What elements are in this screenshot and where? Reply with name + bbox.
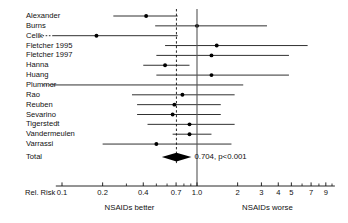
study-row (137, 103, 221, 107)
axis-tick-label: 7 (309, 188, 313, 197)
study-label-plummer: Plummer (26, 80, 57, 89)
study-label-fletcher-1997: Fletcher 1997 (26, 50, 72, 59)
study-row (137, 113, 221, 117)
point-estimate-marker (171, 113, 175, 117)
axis-tick-label: 0.2 (97, 188, 108, 197)
study-row (103, 142, 232, 146)
study-label-sevarino: Sevarino (26, 110, 56, 119)
point-estimate-marker (95, 34, 99, 38)
study-label-fletcher-1995: Fletcher 1995 (26, 41, 72, 50)
point-estimate-marker (188, 132, 192, 136)
study-label-tigerstedt: Tigerstedt (26, 119, 60, 128)
x-axis: 0.10.20.40.71.0234579Rel. Risk (25, 182, 335, 197)
axis-tick-label: 5 (289, 188, 293, 197)
point-estimate-marker (210, 53, 214, 57)
study-label-huang: Huang (26, 70, 48, 79)
point-estimate-marker (180, 93, 184, 97)
study-label-rao: Rao (26, 90, 40, 99)
study-label-varrassi: Varrassi (26, 139, 54, 148)
point-estimate-marker (172, 103, 176, 107)
point-estimate-marker (154, 142, 158, 146)
study-label-alexander: Alexander (26, 11, 61, 20)
summary-estimate-label: 0.704, p<0.001 (194, 152, 246, 161)
study-row (155, 24, 267, 28)
footer-left-label: NSAIDs better (105, 203, 155, 212)
study-label-vandermeulen: Vandermeulen (26, 129, 75, 138)
axis-tick-label: 0.4 (138, 188, 149, 197)
study-rows (42, 14, 307, 146)
axis-footers: NSAIDs betterNSAIDs worse (105, 203, 293, 212)
x-axis-title: Rel. Risk (25, 188, 56, 197)
study-row (143, 63, 189, 67)
study-label-burns: Burns (26, 21, 46, 30)
study-row (173, 132, 212, 136)
study-label-celik: Celik (26, 31, 43, 40)
study-row (132, 93, 235, 97)
axis-tick-label: 2 (236, 188, 240, 197)
summary-row: 0.704, p<0.001 (162, 152, 247, 161)
point-estimate-marker (215, 44, 219, 48)
axis-tick-label: 9 (324, 188, 328, 197)
point-estimate-marker (144, 14, 148, 18)
study-row (148, 122, 235, 126)
point-estimate-marker (163, 63, 167, 67)
study-row (165, 44, 308, 48)
forest-plot: AlexanderBurnsCelikFletcher 1995Fletcher… (0, 0, 348, 223)
study-label-reuben: Reuben (26, 100, 53, 109)
axis-tick-label: 4 (276, 188, 280, 197)
point-estimate-marker (210, 73, 214, 77)
study-label-column: AlexanderBurnsCelikFletcher 1995Fletcher… (26, 11, 75, 161)
summary-diamond (162, 153, 192, 162)
point-estimate-marker (188, 122, 192, 126)
axis-tick-label: 0.7 (171, 188, 182, 197)
study-row (42, 34, 177, 38)
axis-tick-label: 1.0 (192, 188, 203, 197)
study-label-total: Total (26, 152, 42, 161)
axis-tick-label: 0.1 (57, 188, 68, 197)
study-label-hanna: Hanna (26, 60, 49, 69)
axis-tick-label: 3 (259, 188, 263, 197)
study-row (113, 14, 177, 18)
footer-right-label: NSAIDs worse (242, 203, 293, 212)
